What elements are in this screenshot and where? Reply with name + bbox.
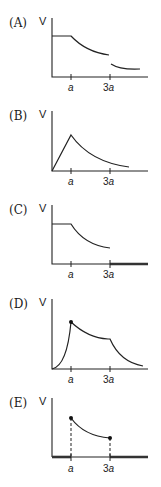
y-axis-label: V [39, 108, 47, 120]
tick-label-3a: 3a [103, 176, 115, 187]
option-label-b: (B) [9, 109, 27, 123]
y-axis-label: V [39, 395, 47, 407]
tick-label-3a: 3a [103, 463, 115, 474]
marker-at-a [69, 416, 73, 420]
graph-a: (A) V a 3a [9, 15, 148, 93]
curve-outside [111, 64, 140, 69]
y-axis-label: V [39, 296, 47, 308]
option-label-e: (E) [9, 396, 27, 410]
option-label-d: (D) [9, 297, 28, 311]
tick-label-a: a [68, 82, 74, 93]
tick-label-3a: 3a [103, 82, 115, 93]
graph-d: (D) V a 3a [9, 296, 148, 385]
y-axis-label: V [39, 202, 47, 214]
curve [71, 418, 110, 438]
tick-label-a: a [68, 374, 74, 385]
axes [52, 18, 148, 77]
tick-label-a: a [68, 176, 74, 187]
tick-label-3a: 3a [103, 269, 115, 280]
option-label-a: (A) [9, 16, 27, 30]
peak-marker [69, 320, 73, 324]
axes [52, 299, 148, 369]
marker-at-3a [108, 436, 112, 440]
curve [52, 224, 110, 248]
answer-choices-figure: (A) V a 3a (B) V a 3a (C) V a 3a (D) V [0, 0, 161, 487]
axes [52, 111, 148, 171]
axes [52, 205, 110, 264]
curve [52, 322, 143, 369]
curve [52, 135, 129, 171]
graph-e: (E) V a 3a [9, 395, 148, 474]
graph-b: (B) V a 3a [9, 108, 148, 187]
graph-c: (C) V a 3a [9, 202, 148, 280]
curve-inside [52, 36, 109, 55]
tick-label-3a: 3a [103, 374, 115, 385]
option-label-c: (C) [9, 203, 28, 217]
y-axis-label: V [39, 15, 47, 27]
tick-label-a: a [68, 269, 74, 280]
tick-label-a: a [68, 463, 74, 474]
